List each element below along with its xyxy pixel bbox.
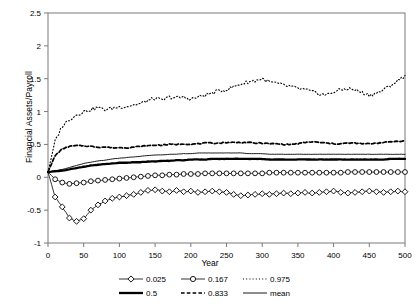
y-tick-label: 2.5: [30, 9, 42, 18]
series-marker-0.167: [181, 172, 186, 177]
legend-item-0.975[interactable]: 0.975: [242, 274, 308, 284]
legend-item-0.833[interactable]: 0.833: [180, 288, 242, 298]
series-marker-0.167: [231, 171, 236, 176]
series-line-mean: [48, 153, 405, 172]
series-marker-0.025: [395, 188, 401, 194]
legend-label: 0.167: [208, 275, 228, 284]
y-tick-label: 0: [37, 173, 42, 182]
series-marker-0.025: [374, 189, 380, 195]
series-marker-0.025: [152, 187, 158, 193]
legend-swatch-mean: [242, 288, 268, 298]
legend-label: mean: [270, 289, 290, 298]
series-marker-0.167: [367, 170, 372, 175]
series-marker-0.025: [209, 188, 215, 194]
chart-legend: 0.0250.1670.9750.50.833mean: [118, 272, 318, 300]
series-marker-0.025: [259, 191, 265, 197]
legend-item-0.025[interactable]: 0.025: [118, 274, 180, 284]
legend-item-0.5[interactable]: 0.5: [118, 288, 180, 298]
series-marker-0.025: [195, 190, 201, 196]
series-marker-0.025: [331, 188, 337, 194]
series-marker-0.167: [110, 177, 115, 182]
legend-label: 0.5: [146, 289, 157, 298]
series-marker-0.025: [402, 189, 408, 195]
series-marker-0.025: [274, 191, 280, 197]
series-marker-0.167: [246, 171, 251, 176]
series-marker-0.025: [281, 190, 287, 196]
series-marker-0.167: [403, 170, 408, 175]
series-marker-0.167: [60, 180, 65, 185]
series-marker-0.025: [302, 190, 308, 196]
series-marker-0.167: [338, 170, 343, 175]
series-marker-0.025: [381, 190, 387, 196]
series-marker-0.167: [360, 170, 365, 175]
series-marker-0.025: [352, 190, 358, 196]
legend-label: 0.833: [208, 289, 228, 298]
series-marker-0.167: [281, 170, 286, 175]
series-marker-0.025: [138, 190, 144, 196]
series-marker-0.025: [74, 218, 80, 224]
series-marker-0.025: [95, 202, 101, 208]
series-marker-0.167: [160, 173, 165, 178]
y-axis-title: Financial Assets/Payroll: [24, 32, 34, 202]
legend-item-mean[interactable]: mean: [242, 288, 308, 298]
series-marker-0.025: [252, 191, 258, 197]
series-marker-0.167: [81, 180, 86, 185]
legend-label: 0.975: [270, 275, 290, 284]
series-marker-0.025: [117, 194, 123, 200]
series-marker-0.167: [331, 170, 336, 175]
series-marker-0.025: [181, 189, 187, 195]
series-marker-0.167: [353, 170, 358, 175]
chart-container: -1-0.500.511.522.50501001502002503003504…: [0, 0, 420, 306]
legend-swatch-0.025: [118, 274, 144, 284]
series-marker-0.025: [288, 191, 294, 197]
series-marker-0.025: [231, 191, 237, 197]
x-axis-title: Year: [0, 258, 420, 268]
series-marker-0.167: [317, 170, 322, 175]
series-marker-0.167: [267, 170, 272, 175]
series-marker-0.167: [310, 170, 315, 175]
legend-swatch-0.167: [180, 274, 206, 284]
series-marker-0.025: [202, 189, 208, 195]
series-line-0.833: [48, 141, 405, 172]
series-marker-0.025: [224, 190, 230, 196]
series-marker-0.167: [53, 177, 58, 182]
y-tick-label: 2: [37, 42, 42, 51]
legend-label: 0.025: [146, 275, 166, 284]
series-marker-0.025: [316, 190, 322, 196]
series-marker-0.167: [153, 173, 158, 178]
series-marker-0.167: [167, 172, 172, 177]
series-marker-0.167: [395, 170, 400, 175]
series-marker-0.025: [188, 188, 194, 194]
series-marker-0.025: [338, 190, 344, 196]
series-marker-0.025: [109, 195, 115, 201]
series-marker-0.167: [74, 181, 79, 186]
series-marker-0.167: [324, 170, 329, 175]
series-marker-0.167: [196, 172, 201, 177]
series-marker-0.167: [103, 178, 108, 183]
data-series-layer: [48, 75, 408, 224]
legend-item-0.167[interactable]: 0.167: [180, 274, 242, 284]
series-marker-0.025: [238, 193, 244, 199]
series-marker-0.167: [188, 172, 193, 177]
series-marker-0.025: [67, 215, 73, 221]
series-marker-0.025: [324, 189, 330, 195]
series-marker-0.025: [102, 198, 108, 204]
series-marker-0.167: [388, 170, 393, 175]
series-marker-0.167: [260, 171, 265, 176]
series-line-0.025: [48, 172, 405, 221]
legend-swatch-0.833: [180, 288, 206, 298]
series-marker-0.167: [67, 181, 72, 186]
series-marker-0.167: [381, 170, 386, 175]
legend-swatch-0.5: [118, 288, 144, 298]
series-marker-0.167: [117, 176, 122, 181]
series-marker-0.167: [138, 174, 143, 179]
series-marker-0.025: [59, 204, 65, 210]
series-marker-0.167: [374, 170, 379, 175]
series-marker-0.167: [88, 179, 93, 184]
series-marker-0.025: [266, 191, 272, 197]
series-marker-0.025: [309, 190, 315, 196]
series-marker-0.025: [216, 189, 222, 195]
series-marker-0.025: [388, 189, 394, 195]
series-marker-0.167: [217, 171, 222, 176]
series-marker-0.167: [345, 170, 350, 175]
